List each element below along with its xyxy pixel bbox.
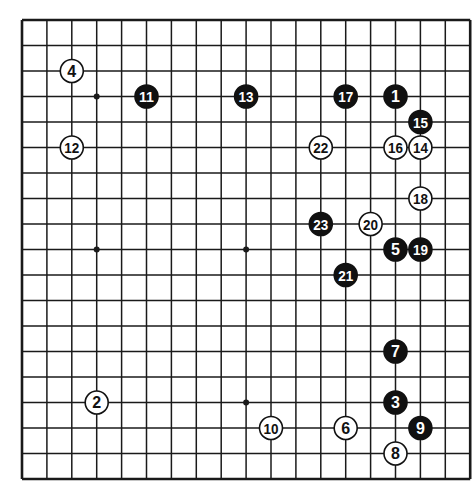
black-stone-19: 19 (409, 238, 432, 261)
white-stone-14: 14 (409, 136, 432, 159)
move-number: 23 (313, 217, 328, 233)
move-number: 1 (391, 88, 400, 105)
black-stone-3: 3 (384, 391, 407, 414)
white-stone-18: 18 (409, 187, 432, 210)
white-stone-8: 8 (384, 442, 407, 465)
star-point (243, 400, 249, 406)
go-board: 1234567891011121314151617181920212223 (0, 0, 475, 501)
black-stone-21: 21 (334, 264, 357, 287)
white-stone-22: 22 (309, 136, 332, 159)
move-number: 10 (264, 421, 279, 437)
star-point (243, 247, 249, 253)
black-stone-23: 23 (309, 213, 332, 236)
move-number: 9 (416, 420, 425, 437)
move-number: 20 (363, 217, 378, 233)
move-number: 7 (391, 343, 400, 360)
black-stone-5: 5 (384, 238, 407, 261)
black-stone-13: 13 (235, 85, 258, 108)
move-number: 22 (313, 140, 328, 156)
move-number: 14 (413, 140, 428, 156)
move-number: 21 (338, 268, 353, 284)
move-number: 13 (239, 89, 254, 105)
white-stone-4: 4 (60, 60, 83, 83)
white-stone-10: 10 (260, 417, 283, 440)
move-number: 6 (341, 420, 350, 437)
move-number: 11 (139, 89, 154, 105)
move-number: 18 (413, 191, 428, 207)
move-number: 8 (391, 445, 400, 462)
star-point (94, 247, 100, 253)
move-number: 5 (391, 241, 400, 258)
move-number: 17 (338, 89, 353, 105)
black-stone-17: 17 (334, 85, 357, 108)
move-number: 2 (92, 394, 101, 411)
move-number: 16 (388, 140, 403, 156)
star-point (94, 94, 100, 100)
white-stone-6: 6 (334, 417, 357, 440)
move-number: 19 (413, 242, 428, 258)
black-stone-7: 7 (384, 340, 407, 363)
black-stone-15: 15 (409, 111, 432, 134)
move-number: 4 (67, 63, 76, 80)
move-number: 12 (64, 140, 79, 156)
black-stone-1: 1 (384, 85, 407, 108)
black-stone-9: 9 (409, 417, 432, 440)
white-stone-20: 20 (359, 213, 382, 236)
white-stone-16: 16 (384, 136, 407, 159)
white-stone-2: 2 (85, 391, 108, 414)
move-number: 15 (413, 115, 428, 131)
move-number: 3 (391, 394, 400, 411)
white-stone-12: 12 (60, 136, 83, 159)
black-stone-11: 11 (135, 85, 158, 108)
